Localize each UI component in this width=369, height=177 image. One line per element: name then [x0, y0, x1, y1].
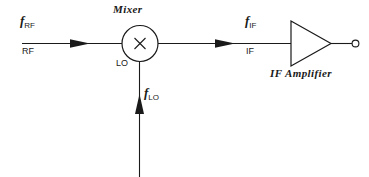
block-diagram: Mixer fRF RF LO fLO fIF IF IF Amplifier [0, 0, 369, 177]
if-frequency-subscript: IF [249, 21, 256, 30]
if-port-label: IF [246, 47, 254, 56]
if-frequency-label: fIF [245, 12, 256, 28]
rf-port-label: RF [22, 47, 34, 56]
output-terminal-circle [352, 40, 359, 47]
if-arrowhead-icon [215, 39, 235, 48]
diagram-canvas [0, 0, 369, 177]
lo-frequency-subscript: LO [148, 93, 159, 102]
mixer-lo-port-label: LO [116, 59, 128, 68]
rf-frequency-label: fRF [20, 12, 35, 28]
if-amplifier-triangle [291, 21, 331, 66]
lo-frequency-label: fLO [144, 84, 159, 100]
mixer-caption: Mixer [113, 4, 143, 15]
lo-arrowhead-icon [135, 94, 144, 114]
if-amplifier-caption: IF Amplifier [270, 68, 332, 79]
rf-arrowhead-icon [70, 39, 90, 48]
rf-frequency-subscript: RF [24, 21, 35, 30]
